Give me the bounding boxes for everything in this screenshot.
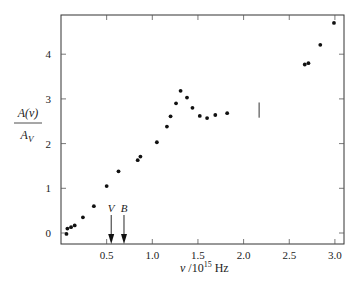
data-point [198, 114, 202, 118]
data-point [205, 116, 209, 120]
arrow-down-icon [108, 234, 114, 244]
x-label: ν /1015 Hz [180, 260, 229, 275]
y-tick-labels: 01234 [46, 48, 52, 239]
y-tick-label: 4 [46, 48, 52, 60]
band-annotations: VB [108, 202, 128, 244]
data-point [225, 111, 229, 115]
data-point [179, 89, 183, 93]
data-point [332, 21, 336, 25]
x-tick-label: 0.5 [100, 249, 114, 261]
band-marker-b: B [121, 202, 128, 244]
data-point [117, 169, 121, 173]
data-point [169, 114, 173, 118]
data-point [105, 184, 109, 188]
data-point [69, 225, 73, 229]
y-label-denominator: AV [20, 128, 35, 144]
band-marker-v: V [108, 202, 116, 244]
data-point [136, 158, 140, 162]
data-point [92, 204, 96, 208]
data-point [185, 96, 189, 100]
y-tick-label: 0 [46, 227, 52, 239]
y-tick-label: 3 [46, 93, 52, 105]
y-axis-label: A(ν) AV [14, 106, 42, 144]
y-label-numerator: A(ν) [17, 106, 39, 120]
data-point [307, 61, 311, 65]
x-tick-label: 2.0 [237, 249, 251, 261]
x-tick-labels: 0.51.01.52.02.53.0 [100, 249, 343, 261]
data-point [303, 63, 307, 67]
data-point [191, 106, 195, 110]
data-point [213, 113, 217, 117]
x-tick-label: 3.0 [328, 249, 342, 261]
data-point [65, 227, 69, 231]
y-tick-label: 2 [46, 138, 52, 150]
x-axis-label: ν /1015 Hz [180, 260, 229, 275]
data-point [81, 215, 85, 219]
data-point [139, 155, 143, 159]
svg-text:B: B [121, 202, 128, 214]
arrow-down-icon [121, 234, 127, 244]
data-point [155, 140, 159, 144]
data-point [65, 232, 69, 236]
svg-text:V: V [108, 202, 116, 214]
axis-ticks [61, 15, 344, 244]
y-tick-label: 1 [46, 182, 52, 194]
data-points [65, 21, 336, 236]
plot-frame [61, 15, 344, 244]
x-tick-label: 1.0 [145, 249, 159, 261]
data-point [165, 125, 169, 129]
data-point [73, 224, 77, 228]
extinction-chart: 0.51.01.52.02.53.0 01234 VB A(ν) AV ν /1… [0, 0, 361, 288]
x-tick-label: 2.5 [282, 249, 296, 261]
data-point [318, 43, 322, 47]
data-point [174, 101, 178, 105]
